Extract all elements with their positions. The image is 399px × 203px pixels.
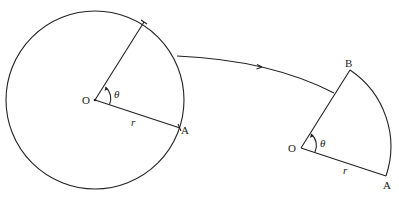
circle-angle-label: θ <box>114 88 120 100</box>
circle-point-a-label: A <box>181 124 189 136</box>
circle-radius-label: r <box>131 116 136 128</box>
connector-curve <box>177 56 334 93</box>
sector-radius-label: r <box>343 164 348 176</box>
circle-center-label: O <box>82 94 90 106</box>
sector-arc <box>350 70 391 176</box>
sector-angle-label: θ <box>320 137 326 149</box>
sector-point-a-label: A <box>383 179 391 191</box>
diagram-canvas: O θ r A O θ r B A <box>0 0 399 203</box>
sector-point-b-label: B <box>345 57 352 69</box>
connector <box>177 56 334 93</box>
circle-figure: O θ r A <box>6 11 189 189</box>
tick-mark <box>141 20 147 24</box>
sector-center-label: O <box>288 142 296 154</box>
circle-radius-upper <box>95 22 144 100</box>
sector-figure: O θ r B A <box>288 57 391 191</box>
diagram: O θ r A O θ r B A <box>0 0 399 203</box>
circle-radius-oa <box>95 100 180 128</box>
center-dot <box>94 99 97 102</box>
sector-angle-arrowhead-icon <box>310 134 314 138</box>
